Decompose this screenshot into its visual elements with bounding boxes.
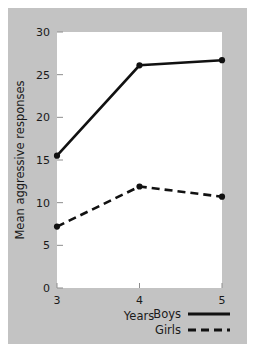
- y-tick-label: 10: [36, 197, 50, 210]
- data-point-girls: [219, 194, 225, 200]
- x-tick-label: 4: [136, 294, 143, 307]
- x-tick-label: 3: [54, 294, 61, 307]
- y-axis-title: Mean aggressive responses: [13, 80, 27, 239]
- y-tick-label: 0: [43, 282, 50, 295]
- x-axis-title: Years: [123, 309, 154, 323]
- plot-area: [57, 32, 222, 288]
- data-point-boys: [136, 62, 142, 68]
- data-point-boys: [219, 57, 225, 63]
- x-axis-tick-labels: 345: [54, 294, 226, 307]
- legend-label-boys: Boys: [153, 307, 181, 321]
- y-tick-label: 30: [36, 26, 50, 39]
- data-point-girls: [54, 224, 60, 230]
- x-tick-label: 5: [219, 294, 226, 307]
- y-axis-tick-labels: 302520151050: [36, 26, 50, 295]
- y-tick-label: 5: [43, 239, 50, 252]
- y-tick-label: 25: [36, 69, 50, 82]
- legend-label-girls: Girls: [155, 323, 181, 337]
- line-chart: 302520151050 345 Mean aggressive respons…: [8, 8, 247, 344]
- data-point-boys: [54, 153, 60, 159]
- y-tick-label: 15: [36, 154, 50, 167]
- y-tick-label: 20: [36, 111, 50, 124]
- figure-canvas: 302520151050 345 Mean aggressive respons…: [8, 8, 247, 344]
- chart-legend: BoysGirls: [153, 307, 230, 337]
- data-point-girls: [136, 183, 142, 189]
